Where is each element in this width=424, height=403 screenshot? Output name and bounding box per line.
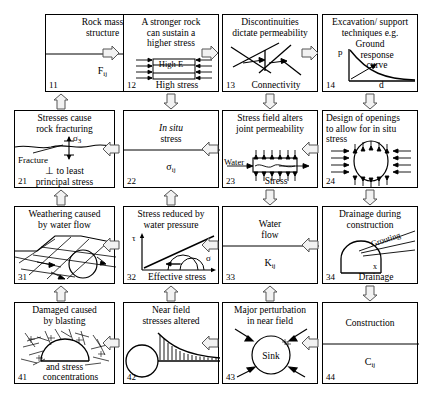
cell-14-number: 14 xyxy=(326,81,335,90)
arrow-up-c3g3 xyxy=(261,285,279,302)
arrow-down-c4g1 xyxy=(361,93,379,110)
arrow-down-c3g2 xyxy=(261,189,279,206)
cell-13-bottom-label: Connectivity xyxy=(237,80,315,90)
arrow-left-r2c3 xyxy=(300,140,320,158)
cell-44-divider xyxy=(323,303,419,385)
cell-24-opening-ellipse-icon xyxy=(323,111,419,189)
cell-21-number: 21 xyxy=(18,177,27,186)
cell-14-y-axis-label: p xyxy=(338,47,343,57)
cell-14-x-axis-label: d xyxy=(379,80,384,90)
arrow-left-r3c1 xyxy=(101,236,121,254)
arrow-up-c1g3 xyxy=(52,285,70,302)
cell-13-number: 13 xyxy=(226,81,235,90)
cell-32-x-axis-label: σ xyxy=(206,253,211,263)
cell-32-number: 32 xyxy=(127,273,136,282)
svg-text:Sink: Sink xyxy=(262,351,280,361)
cell-33-number: 33 xyxy=(226,273,235,282)
arrow-down-c4g3 xyxy=(361,285,379,302)
arrow-right-r1c2 xyxy=(200,44,220,62)
arrow-down-c4g2 xyxy=(361,189,379,206)
arrow-down-c2g1 xyxy=(162,93,180,110)
cell-41-bottom-label-2: concentrations xyxy=(29,372,112,382)
arrow-up-c1g1 xyxy=(52,93,70,110)
cell-34-bottom-label: Drainage xyxy=(337,272,415,282)
matrix-cell-31[interactable]: Weathering caused by water flow xyxy=(14,206,115,284)
matrix-cell-34[interactable]: Drainage during construction x Grouting … xyxy=(322,206,418,284)
arrow-down-c3g1 xyxy=(261,93,279,110)
cell-21-sigma3-label: σ3 xyxy=(73,133,81,145)
cell-42-number: 42 xyxy=(127,373,136,382)
cell-44-symbol: Cij xyxy=(323,356,417,369)
cell-24-number: 24 xyxy=(326,177,335,186)
cell-41-number: 41 xyxy=(18,373,27,382)
arrow-left-r3c2 xyxy=(200,236,220,254)
cell-44-number: 44 xyxy=(326,373,335,382)
arrow-right-r1c3 xyxy=(300,44,320,62)
cell-31-number: 31 xyxy=(18,273,27,282)
cell-41-bottom-label: and stress xyxy=(15,362,114,372)
matrix-cell-21[interactable]: Stresses cause rock fracturing σ3 Fractu… xyxy=(14,110,115,188)
cell-23-number: 23 xyxy=(226,177,235,186)
cell-32-bottom-label: Effective stress xyxy=(138,272,216,282)
matrix-cell-24[interactable]: Design of openings to allow for in situ … xyxy=(322,110,418,188)
arrow-left-r4c3 xyxy=(300,334,320,352)
cell-21-fracture-label: Fracture xyxy=(18,155,48,165)
cell-33-symbol: Kij xyxy=(223,257,317,270)
cell-43-number: 43 xyxy=(226,373,235,382)
cell-22-symbol: σij xyxy=(124,161,218,174)
cell-12-bottom-label: High stress xyxy=(138,80,216,90)
cell-23-bottom-label: Stress xyxy=(237,176,315,186)
cell-12-number: 12 xyxy=(127,81,136,90)
svg-text:x: x xyxy=(373,262,377,271)
matrix-cell-14[interactable]: Excavation/ support techniques e.g. Grou… xyxy=(322,14,418,92)
cell-32-y-axis-label: τ xyxy=(132,233,136,243)
arrow-left-r4c2 xyxy=(200,334,220,352)
arrow-left-r2c2 xyxy=(200,140,220,158)
interaction-matrix: Rock mass structure Fij 11 A stronger ro… xyxy=(0,0,424,403)
cell-34-number: 34 xyxy=(326,273,335,282)
cell-22-number: 22 xyxy=(127,177,136,186)
matrix-cell-41[interactable]: Damaged caused by blasting xyxy=(14,302,115,384)
cell-11-number: 11 xyxy=(49,81,58,90)
arrow-right-r1c1 xyxy=(101,44,121,62)
arrow-up-c2g3 xyxy=(162,285,180,302)
matrix-cell-44[interactable]: Construction Cij 44 xyxy=(322,302,418,384)
arrow-left-r3c3 xyxy=(300,236,320,254)
arrow-up-c2g2 xyxy=(162,189,180,206)
arrow-up-c1g2 xyxy=(52,189,70,206)
cell-23-water-label: Water xyxy=(224,157,244,167)
cell-21-notes: ⊥ to least principal stress xyxy=(15,166,114,187)
arrow-left-r2c1 xyxy=(101,140,121,158)
arrow-left-r4c1 xyxy=(101,334,121,352)
